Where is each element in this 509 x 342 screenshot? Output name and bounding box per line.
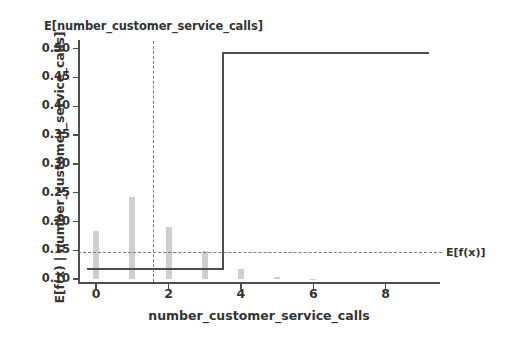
- x-tick-label: 2: [154, 288, 184, 301]
- y-tick-label-text: 0.15: [42, 244, 70, 256]
- x-tick-label: 0: [81, 288, 111, 301]
- x-tick-label-text: 8: [371, 288, 401, 301]
- chart-figure: E[number_customer_service_calls] E[f(x) …: [0, 0, 509, 342]
- y-tick-label: 0.40: [0, 100, 70, 112]
- step-line-segment: [223, 52, 429, 54]
- y-tick-label: 0.25: [0, 187, 70, 199]
- y-tick-label-text: 0.45: [42, 71, 70, 83]
- expected-value-annotation-label: E[f(x)]: [446, 246, 486, 259]
- y-tick-label-text: 0.10: [42, 273, 70, 285]
- y-tick-label: 0.50: [0, 43, 70, 55]
- histogram-bar: [202, 251, 208, 279]
- x-tick-label-text: 2: [154, 288, 184, 301]
- step-line-segment: [87, 268, 223, 270]
- y-tick-label-text: 0.20: [42, 216, 70, 228]
- y-tick-label-text: 0.40: [42, 100, 70, 112]
- x-tick-label: 8: [371, 288, 401, 301]
- x-tick-label-text: 0: [81, 288, 111, 301]
- y-tick-label: 0.10: [0, 273, 70, 285]
- y-tick-label: 0.45: [0, 71, 70, 83]
- histogram-bar: [310, 279, 316, 280]
- chart-title: E[number_customer_service_calls]: [44, 19, 263, 33]
- plot-area: [78, 40, 440, 282]
- x-tick-label: 4: [226, 288, 256, 301]
- x-axis-label: number_customer_service_calls: [78, 308, 440, 323]
- histogram-bar: [238, 269, 244, 279]
- y-tick-label: 0.30: [0, 158, 70, 170]
- histogram-bar: [93, 231, 99, 279]
- mean-feature-value-line: [153, 41, 154, 282]
- y-tick-label-text: 0.30: [42, 158, 70, 170]
- x-tick-label: 6: [298, 288, 328, 301]
- y-tick-label: 0.35: [0, 129, 70, 141]
- x-tick-label-text: 6: [298, 288, 328, 301]
- histogram-bar: [274, 277, 280, 279]
- step-line-segment: [222, 52, 224, 270]
- y-tick-label-text: 0.35: [42, 129, 70, 141]
- y-tick-label: 0.20: [0, 216, 70, 228]
- expected-value-line: [78, 252, 442, 253]
- x-tick-label-text: 4: [226, 288, 256, 301]
- y-tick-label: 0.15: [0, 244, 70, 256]
- y-tick-label-text: 0.50: [42, 43, 70, 55]
- y-tick-label-text: 0.25: [42, 187, 70, 199]
